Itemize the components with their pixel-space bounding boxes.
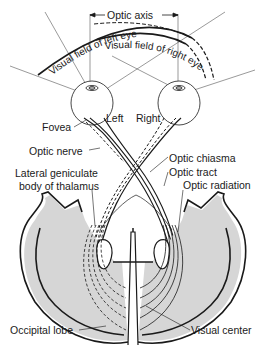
lateral-geniculate-label-line2: body of thalamus xyxy=(19,180,99,192)
optic-chiasma-label: Optic chiasma xyxy=(169,152,236,164)
visual-pathway-diagram: Visual field of left eye Visual field of… xyxy=(0,0,265,349)
optic-radiation-label: Optic radiation xyxy=(183,179,251,191)
right-label: Right xyxy=(136,112,161,124)
left-label: Left xyxy=(106,112,124,124)
occipital-lobe-label: Occipital lobe xyxy=(10,324,73,336)
optic-axis-label: Optic axis xyxy=(106,9,154,21)
sight-lines xyxy=(10,12,255,95)
visual-field-left-label: Visual field of left eye xyxy=(47,28,138,77)
brain-cortex xyxy=(20,192,245,345)
optic-nerve-label: Optic nerve xyxy=(29,145,83,157)
optic-tract-label: Optic tract xyxy=(169,166,217,178)
visual-field-right-label: Visual field of right eye xyxy=(104,39,206,73)
fovea-label: Fovea xyxy=(42,121,71,133)
visual-center-label: Visual center xyxy=(191,324,252,336)
lateral-geniculate-label-line1: Lateral geniculate xyxy=(15,167,98,179)
